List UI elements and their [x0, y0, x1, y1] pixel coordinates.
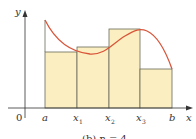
rectangle-2 — [77, 47, 109, 108]
y-axis-arrow-icon — [23, 10, 28, 17]
x-axis-arrow-icon — [186, 106, 193, 111]
tick-label-a: a — [42, 112, 48, 123]
tick-sub-x1: 1 — [79, 118, 83, 125]
riemann-sum-figure: y x 0 a x 1 x 2 x 3 b (b) n = 4 — [0, 0, 196, 139]
rectangles — [45, 29, 172, 108]
rectangle-3 — [109, 29, 140, 108]
tick-sub-x2: 2 — [111, 118, 115, 125]
tick-label-b: b — [169, 112, 175, 123]
y-axis-label: y — [14, 6, 21, 17]
tick-sub-x3: 3 — [142, 118, 146, 125]
caption: (b) n = 4 — [82, 133, 127, 139]
origin-label: 0 — [16, 112, 22, 123]
rectangle-4 — [140, 69, 172, 108]
rectangle-1 — [45, 52, 77, 108]
x-axis-label: x — [186, 112, 192, 123]
